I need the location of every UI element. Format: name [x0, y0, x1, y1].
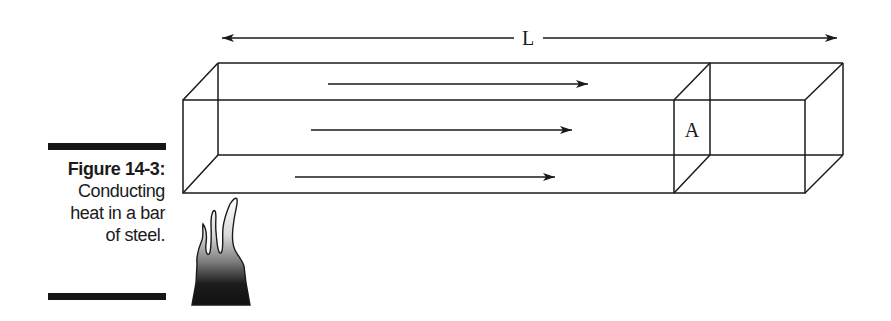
steel-bar-diagram: L A — [0, 0, 891, 321]
area-label: A — [685, 119, 700, 141]
steel-bar — [183, 63, 843, 193]
length-label: L — [522, 27, 534, 49]
heat-flow-arrows — [295, 84, 588, 177]
flame-icon — [192, 198, 250, 305]
length-dimension: L — [222, 27, 837, 49]
